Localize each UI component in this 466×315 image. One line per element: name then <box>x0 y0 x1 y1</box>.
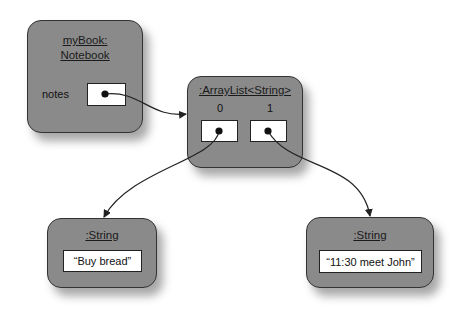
notebook-title-line1: myBook: <box>28 33 142 47</box>
arraylist-title: :ArrayList<String> <box>188 83 302 97</box>
string2-value: “11:30 meet John” <box>319 250 422 273</box>
string2-title: :String <box>307 228 433 242</box>
slot-index-0: 0 <box>217 102 223 114</box>
arraylist-object: :ArrayList<String> 0 1 <box>187 76 303 168</box>
string-object-meet-john: :String “11:30 meet John” <box>306 217 434 288</box>
slot-box-1 <box>250 120 287 142</box>
string1-title: :String <box>48 228 156 242</box>
notes-field-box <box>87 83 126 106</box>
slot-box-0 <box>201 120 238 142</box>
string-object-buy-bread: :String “Buy bread” <box>47 218 157 288</box>
string1-value: “Buy bread” <box>63 250 142 272</box>
notes-field-label: notes <box>42 88 69 100</box>
slot-index-1: 1 <box>267 102 273 114</box>
notebook-object: myBook: Notebook notes <box>27 20 143 133</box>
notebook-title-line2: Notebook <box>28 48 142 62</box>
